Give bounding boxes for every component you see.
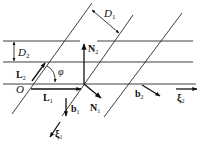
- origin-label: O: [16, 83, 24, 95]
- n1-label: N1: [90, 102, 100, 114]
- b2-label: b2: [135, 88, 144, 100]
- d1-label: D1: [103, 7, 116, 21]
- l2-label: L2: [16, 69, 26, 81]
- xi1-label: ξ1: [55, 128, 62, 140]
- phi-label: φ: [58, 66, 64, 77]
- dislocation-diagram: D1 D2 L2 φ O L1 N2 N1 b1 ξ1 b2 ξ2: [0, 0, 200, 147]
- b2-arrow: [142, 85, 160, 96]
- d2-label: D2: [17, 46, 30, 60]
- phi-angle-arc: [47, 66, 55, 82]
- l2-arrow: [32, 63, 45, 81]
- n2-label: N2: [88, 43, 98, 55]
- xi2-label: ξ2: [177, 92, 184, 104]
- b1-label: b1: [71, 103, 80, 115]
- l1-label: L1: [43, 92, 53, 104]
- diagonal-plane-lines: [12, 3, 182, 117]
- n1-vector-arrow: [84, 84, 101, 98]
- diagonal-line-3: [104, 13, 182, 117]
